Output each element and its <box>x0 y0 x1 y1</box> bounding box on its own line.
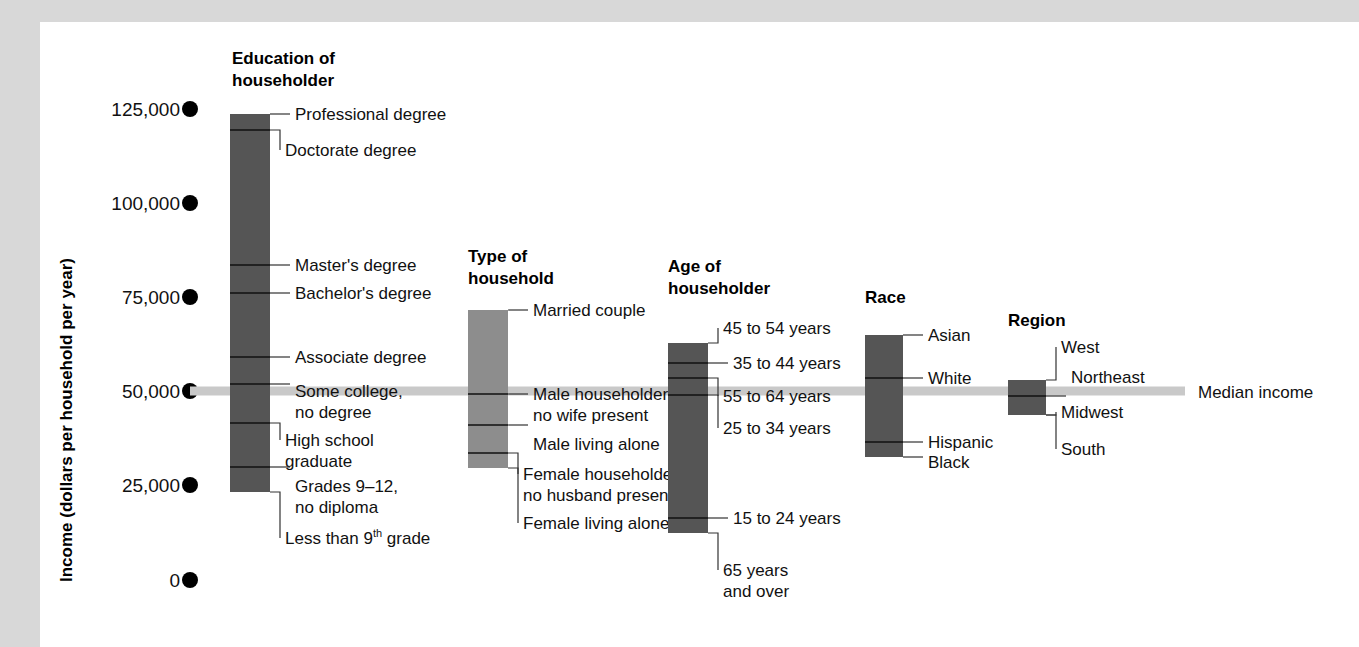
region-label-west: West <box>1061 338 1100 357</box>
race-label-white: White <box>928 369 971 388</box>
group-household-title-line2: household <box>468 269 554 288</box>
age-label-25-34: 25 to 34 years <box>723 419 831 438</box>
education-label-lt9-sup: th <box>373 527 382 539</box>
age-label-15-24: 15 to 24 years <box>733 509 841 528</box>
age-label-45-54: 45 to 54 years <box>723 319 831 338</box>
education-label-doctorate: Doctorate degree <box>285 141 416 160</box>
household-label-married: Married couple <box>533 301 645 320</box>
group-age-title-line2: householder <box>668 279 770 298</box>
education-label-grades912-line2: no diploma <box>295 498 379 517</box>
race-bar <box>865 335 903 457</box>
y-axis-title: Income (dollars per household per year) <box>57 258 76 582</box>
group-household: Type of household Married couple Male ho… <box>468 247 682 533</box>
age-label-65-over-line1: 65 years <box>723 561 788 580</box>
group-region: Region West Northeast Midwest South <box>1008 311 1145 459</box>
group-age-title-line1: Age of <box>668 257 721 276</box>
education-label-lt9-post: grade <box>382 529 430 548</box>
education-label-associate: Associate degree <box>295 348 426 367</box>
region-leader-west <box>1046 347 1056 380</box>
education-bar <box>230 114 270 492</box>
age-bar <box>668 343 708 533</box>
age-label-55-64: 55 to 64 years <box>723 387 831 406</box>
education-leader-less-than-9th <box>270 492 280 538</box>
y-tick-marker-25000 <box>182 477 198 493</box>
y-tick-marker-100000 <box>182 195 198 211</box>
region-label-midwest: Midwest <box>1061 403 1124 422</box>
y-tick-75000: 75,000 <box>122 287 180 308</box>
age-leader-45-54 <box>708 328 718 343</box>
household-label-male-householder-line1: Male householder, <box>533 385 672 404</box>
income-chart-svg: Income (dollars per household per year) … <box>40 22 1359 647</box>
region-label-northeast: Northeast <box>1071 368 1145 387</box>
y-tick-100000: 100,000 <box>111 193 180 214</box>
y-tick-marker-0 <box>182 572 198 588</box>
household-bar <box>468 310 508 468</box>
group-household-title-line1: Type of <box>468 247 528 266</box>
group-education-title-line2: householder <box>232 71 334 90</box>
education-leader-doctorate <box>270 130 280 150</box>
education-label-grades912-line1: Grades 9–12, <box>295 477 398 496</box>
household-leader-female-householder <box>508 453 518 474</box>
y-tick-marker-75000 <box>182 289 198 305</box>
region-leader-south <box>1046 415 1056 449</box>
age-label-65-over-line2: and over <box>723 582 789 601</box>
household-leader-female-alone <box>508 468 518 523</box>
education-label-less-than-9th: Less than 9th grade <box>285 527 430 548</box>
group-region-title: Region <box>1008 311 1066 330</box>
education-leader-high-school <box>270 423 280 440</box>
region-label-south: South <box>1061 440 1105 459</box>
y-tick-25000: 25,000 <box>122 475 180 496</box>
education-label-lt9-pre: Less than 9 <box>285 529 373 548</box>
household-label-female-householder-line1: Female householder, <box>523 465 682 484</box>
race-label-asian: Asian <box>928 326 971 345</box>
race-label-hispanic: Hispanic <box>928 433 994 452</box>
household-label-female-alone: Female living alone <box>523 514 669 533</box>
household-label-male-householder-line2: no wife present <box>533 406 649 425</box>
y-axis-ticks: 125,000 100,000 75,000 50,000 25,000 0 <box>111 99 198 591</box>
group-race-title: Race <box>865 288 906 307</box>
group-education: Education of householder Professional de… <box>230 49 446 548</box>
group-education-title-line1: Education of <box>232 49 335 68</box>
education-label-professional: Professional degree <box>295 105 446 124</box>
figure-card: Income (dollars per household per year) … <box>40 22 1359 647</box>
y-tick-0: 0 <box>169 570 180 591</box>
household-label-male-alone: Male living alone <box>533 435 660 454</box>
age-leader-25-34 <box>708 395 718 428</box>
group-race: Race Asian White Hispanic Black <box>865 288 994 472</box>
age-leader-65-over <box>708 533 718 570</box>
y-tick-50000: 50,000 <box>122 381 180 402</box>
race-label-black: Black <box>928 453 970 472</box>
education-label-some-college-line2: no degree <box>295 403 372 422</box>
region-bar <box>1008 380 1046 415</box>
chart-stage: Income (dollars per household per year) … <box>40 22 1359 647</box>
education-label-bachelors: Bachelor's degree <box>295 284 432 303</box>
age-label-35-44: 35 to 44 years <box>733 354 841 373</box>
median-income-label: Median income <box>1198 383 1313 402</box>
education-label-some-college-line1: Some college, <box>295 382 403 401</box>
group-age: Age of householder 45 to 54 years 35 to … <box>668 257 841 601</box>
y-tick-125000: 125,000 <box>111 99 180 120</box>
education-label-high-school-line1: High school <box>285 431 374 450</box>
education-label-high-school-line2: graduate <box>285 452 352 471</box>
household-label-female-householder-line2: no husband present <box>523 486 674 505</box>
education-label-masters: Master's degree <box>295 256 416 275</box>
y-tick-marker-125000 <box>182 101 198 117</box>
